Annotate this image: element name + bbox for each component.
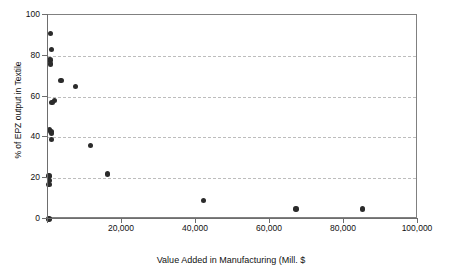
gridline-y-80 xyxy=(48,56,416,57)
y-tick-label-100: 100 xyxy=(10,10,40,19)
x-axis-title: Value Added in Manufacturing (Mill. $ xyxy=(0,255,462,265)
gridline-y-20 xyxy=(48,178,416,179)
x-tick-label-100000: 100,000 xyxy=(387,224,447,233)
data-point xyxy=(88,143,93,148)
x-tick-label-60000: 60,000 xyxy=(239,224,299,233)
data-point xyxy=(48,61,53,66)
data-point xyxy=(293,206,298,211)
plot-area xyxy=(47,14,417,218)
y-tick-mark-60 xyxy=(42,96,47,97)
data-point xyxy=(360,206,365,211)
data-point xyxy=(48,31,53,36)
y-tick-mark-20 xyxy=(42,177,47,178)
y-tick-mark-80 xyxy=(42,55,47,56)
data-point xyxy=(73,84,78,89)
x-axis-line xyxy=(47,218,417,219)
data-point xyxy=(49,47,54,52)
gridline-y-40 xyxy=(48,137,416,138)
gridline-y-60 xyxy=(48,97,416,98)
y-tick-label-0: 0 xyxy=(10,214,40,223)
y-tick-mark-100 xyxy=(42,14,47,15)
data-point xyxy=(49,137,54,142)
x-tick-mark-0 xyxy=(47,218,48,223)
x-tick-label-80000: 80,000 xyxy=(313,224,373,233)
x-tick-label-40000: 40,000 xyxy=(165,224,225,233)
data-point xyxy=(49,100,54,105)
y-tick-mark-40 xyxy=(42,136,47,137)
data-point xyxy=(201,198,206,203)
data-point xyxy=(105,171,110,176)
x-tick-label-20000: 20,000 xyxy=(91,224,151,233)
scatter-chart: 020406080100 20,00040,00060,00080,000100… xyxy=(0,0,462,275)
data-point xyxy=(58,78,63,83)
y-axis-line xyxy=(47,14,48,218)
y-axis-title: % of EPZ output in Textile xyxy=(13,30,23,190)
data-point xyxy=(49,131,54,136)
